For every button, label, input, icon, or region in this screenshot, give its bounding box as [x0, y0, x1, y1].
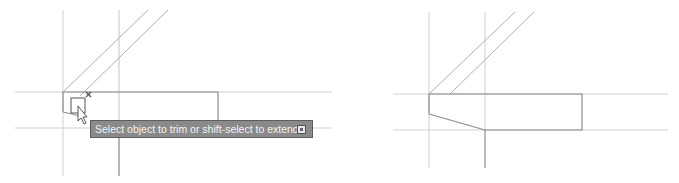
- diagonal-line-2[interactable]: [80, 10, 168, 96]
- diagonal-line-1[interactable]: [63, 10, 148, 92]
- diagonal-line-1[interactable]: [429, 12, 515, 94]
- tooltip-text: Select object to trim or shift-select to…: [95, 123, 297, 135]
- after-trim-panel: [340, 0, 679, 183]
- drawing-canvas-before[interactable]: [0, 0, 340, 183]
- object-outline[interactable]: [429, 94, 582, 130]
- before-trim-panel: Select object to trim or shift-select to…: [0, 0, 340, 183]
- x-marker-icon: [86, 92, 91, 97]
- diagonal-line-2[interactable]: [450, 12, 534, 94]
- arrow-cursor-icon: [78, 106, 87, 124]
- drawing-canvas-after[interactable]: [340, 0, 679, 183]
- command-tooltip: Select object to trim or shift-select to…: [90, 120, 313, 138]
- options-expand-icon[interactable]: [297, 125, 306, 134]
